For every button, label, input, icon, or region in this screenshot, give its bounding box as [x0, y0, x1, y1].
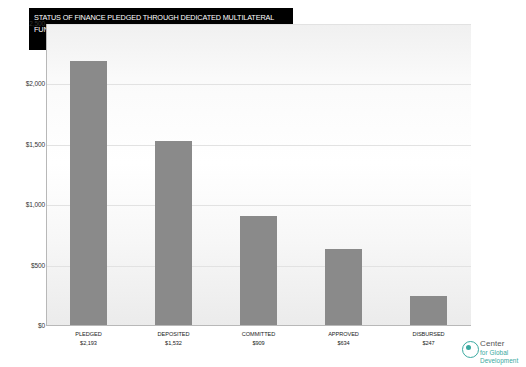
bar-committed [240, 216, 277, 326]
x-axis-category-label: DISBURSED [389, 330, 469, 339]
logo-line-2: for Global [480, 349, 518, 358]
gridline [46, 145, 471, 146]
x-axis-tick-pledged: PLEDGED$2,193 [49, 330, 129, 347]
x-axis-value-label: $247 [389, 339, 469, 348]
plot-area [46, 24, 471, 326]
gridline [46, 84, 471, 85]
slide-canvas: STATUS OF FINANCE PLEDGED THROUGH DEDICA… [0, 0, 526, 367]
logo-line-1: Center [480, 340, 518, 349]
x-axis-tick-disbursed: DISBURSED$247 [389, 330, 469, 347]
y-axis-tick-label: $1,000 [5, 201, 45, 208]
logo-circle-icon [462, 341, 479, 358]
x-axis-category-label: APPROVED [304, 330, 384, 339]
bar-disbursed [410, 296, 447, 326]
x-axis-category-label: COMMITTED [219, 330, 299, 339]
y-axis-tick-label: $500 [5, 262, 45, 269]
y-axis-tick-label: $1,500 [5, 141, 45, 148]
y-axis-line [46, 24, 47, 326]
y-axis-tick-label: $2,000 [5, 80, 45, 87]
gridline [46, 205, 471, 206]
x-axis-tick-deposited: DEPOSITED$1,532 [134, 330, 214, 347]
y-axis-tick-label: 2,500 [5, 20, 45, 27]
logo-line-3: Development [480, 357, 518, 366]
logo-wordmark: Center for Global Development [480, 340, 518, 366]
y-axis-tick-label: $0 [5, 322, 45, 329]
x-axis-value-label: $634 [304, 339, 384, 348]
chart-title-line-1: STATUS OF FINANCE PLEDGED THROUGH DEDICA… [34, 12, 287, 24]
bar-approved [325, 249, 362, 326]
gridline [46, 24, 471, 25]
x-axis-value-label: $909 [219, 339, 299, 348]
x-axis-category-label: PLEDGED [49, 330, 129, 339]
x-axis-tick-approved: APPROVED$634 [304, 330, 384, 347]
cgd-logo: Center for Global Development [462, 340, 522, 364]
bar-deposited [155, 141, 192, 326]
x-axis-line [46, 325, 471, 326]
logo-dot-icon [466, 345, 471, 350]
x-axis-value-label: $2,193 [49, 339, 129, 348]
x-axis-tick-committed: COMMITTED$909 [219, 330, 299, 347]
x-axis-category-label: DEPOSITED [134, 330, 214, 339]
bar-pledged [70, 61, 107, 326]
x-axis-value-label: $1,532 [134, 339, 214, 348]
